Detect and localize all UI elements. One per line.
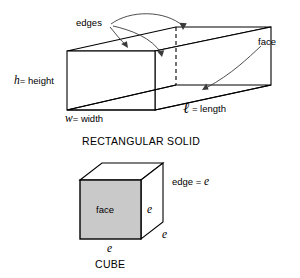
length-equals: = — [192, 103, 198, 114]
label-length: ℓ = length — [183, 101, 226, 116]
edge-variable: e — [204, 175, 209, 187]
label-width: w= width — [65, 113, 103, 125]
edges-leader-long — [111, 14, 183, 26]
label-face-solid: face — [258, 37, 276, 47]
e-depth-variable: e — [162, 228, 167, 240]
length-variable: ℓ — [183, 100, 189, 116]
label-edge-equals-e: edge = e — [172, 176, 209, 188]
label-face-cube: face — [96, 205, 114, 215]
label-e-depth-edge: e — [162, 229, 167, 241]
height-equals: = — [20, 75, 26, 86]
geometry-figure: edges face h= height w= width ℓ = length… — [0, 0, 300, 278]
edge-equals-text: edge = — [172, 176, 201, 187]
length-word: length — [200, 103, 226, 114]
e-right-variable: e — [147, 203, 152, 215]
width-equals: = — [73, 113, 79, 124]
label-e-right-edge: e — [147, 204, 152, 216]
e-bottom-variable: e — [107, 242, 112, 254]
label-height: h= height — [14, 75, 54, 87]
width-word: width — [81, 113, 103, 124]
solid-front-face — [67, 51, 155, 110]
title-rectangular-solid: RECTANGULAR SOLID — [82, 136, 200, 147]
width-variable: w — [65, 112, 73, 124]
label-edges: edges — [76, 18, 102, 28]
height-word: height — [28, 75, 54, 86]
label-e-bottom-edge: e — [107, 243, 112, 255]
title-cube: CUBE — [95, 259, 125, 270]
